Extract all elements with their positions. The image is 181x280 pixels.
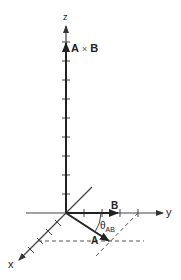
cross-label-a: A [71, 42, 79, 54]
x-axis-label: x [8, 259, 14, 270]
angle-label: θAB [100, 221, 115, 233]
vector-a-label: A [91, 236, 98, 246]
vector-b-label: B [111, 201, 118, 211]
y-axis-label: y [166, 207, 172, 218]
cross-product-label: A × B [71, 43, 98, 54]
cross-label-times: × [82, 44, 87, 54]
angle-subscript: AB [106, 226, 115, 233]
cross-label-b: B [90, 42, 98, 54]
x-axis-ticks [28, 220, 61, 253]
z-axis-label: z [63, 13, 68, 22]
